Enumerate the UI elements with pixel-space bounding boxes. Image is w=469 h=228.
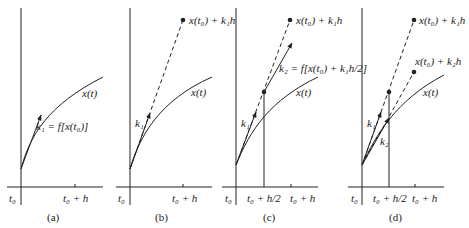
panel-caption: (a) <box>47 211 60 224</box>
panel-d: x(t₀) + k₁h x(t₀) + k₂h x(t) k₁ k₂ t₀ t₀… <box>348 8 466 224</box>
tick-start-label: t₀ <box>225 192 232 204</box>
panel-caption: (b) <box>155 211 168 224</box>
panel-caption: (d) <box>389 211 402 224</box>
tick-start-label: t₀ <box>351 192 358 204</box>
tick-start-label: t₀ <box>9 192 16 204</box>
midpoint <box>387 90 392 95</box>
point-label: x(t₀) + k₁h <box>188 14 236 27</box>
midpoint <box>262 90 267 95</box>
tick-end-label: t₀ + h <box>412 192 438 204</box>
euler-point <box>288 18 293 23</box>
slope2-label: k₂ <box>380 135 389 147</box>
euler-point <box>181 18 186 23</box>
slope-label: k₁ = f[x(t₀)] <box>36 120 88 133</box>
panel-c: x(t₀) + k₁h k₂ = f[x(t₀) + k₁h/2] x(t) k… <box>222 8 367 224</box>
panel-caption: (c) <box>263 211 276 224</box>
tick-mid-label: t₀ + h/2 <box>373 192 407 204</box>
tick-start-label: t₀ <box>118 192 125 204</box>
tick-mid-label: t₀ + h/2 <box>247 192 281 204</box>
euler-point <box>412 18 417 23</box>
runge-kutta-diagram: x(t) k₁ = f[x(t₀)] t₀ t₀ + h (a) x(t₀) +… <box>0 0 469 228</box>
curve-label: x(t) <box>81 87 98 100</box>
slope2-label: k₂ = f[x(t₀) + k₁h/2] <box>279 62 367 75</box>
point1-label: x(t₀) + k₁h <box>418 14 466 27</box>
slope1-label: k₁ <box>367 117 376 129</box>
curve-label: x(t) <box>295 86 312 99</box>
panel-a: x(t) k₁ = f[x(t₀)] t₀ t₀ + h (a) <box>7 8 103 224</box>
slope1-label: k₁ <box>241 117 250 129</box>
panel-b: x(t₀) + k₁h x(t) k₁ t₀ t₀ + h (b) <box>116 8 236 224</box>
tick-end-label: t₀ + h <box>63 192 89 204</box>
tick-end-label: t₀ + h <box>172 192 198 204</box>
slope-label: k₁ <box>135 117 144 129</box>
tick-end-label: t₀ + h <box>290 192 316 204</box>
rk2-point <box>412 70 417 75</box>
curve-label: x(t) <box>190 86 207 99</box>
point2-label: x(t₀) + k₂h <box>414 55 462 68</box>
point-label: x(t₀) + k₁h <box>295 14 343 27</box>
curve-label: x(t) <box>422 86 439 99</box>
